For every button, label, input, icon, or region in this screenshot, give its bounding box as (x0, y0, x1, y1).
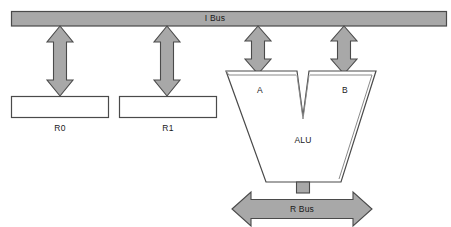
double-arrow-icon (154, 26, 180, 96)
alu-body (226, 71, 376, 182)
r0-rect (12, 97, 109, 118)
alu-label: ALU (294, 135, 311, 145)
arrow-i-bus-to-alu-a (245, 26, 271, 74)
double-arrow-icon (331, 26, 357, 74)
stem-rect (297, 182, 310, 193)
alu-block (226, 71, 376, 182)
double-arrow-icon (47, 26, 73, 96)
register-r0-box (12, 97, 109, 118)
r-bus-label: R Bus (290, 204, 314, 214)
register-r1-label: R1 (162, 123, 173, 133)
arrow-i-bus-to-r0 (47, 26, 73, 96)
diagram-graphics (0, 0, 451, 227)
arrow-i-bus-to-alu-b (331, 26, 357, 74)
diagram-canvas: I Bus R0 R1 A B ALU R Bus (0, 0, 451, 227)
double-arrow-icon (245, 26, 271, 74)
r1-rect (120, 97, 217, 118)
i-bus-rect (12, 12, 447, 27)
arrow-i-bus-to-r1 (154, 26, 180, 96)
alu-output-stem (297, 182, 310, 193)
alu-input-a-label: A (257, 85, 263, 95)
i-bus-label: I Bus (205, 13, 225, 23)
i-bus-bar (12, 12, 447, 27)
alu-input-b-label: B (342, 85, 348, 95)
register-r1-box (120, 97, 217, 118)
register-r0-label: R0 (54, 123, 65, 133)
